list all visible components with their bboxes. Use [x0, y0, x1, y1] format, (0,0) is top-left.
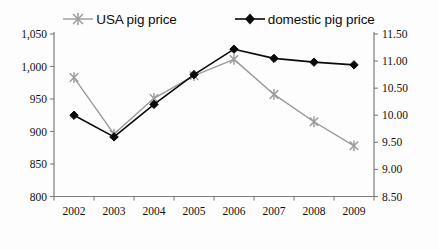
x-axis-tick-label: 2004 [143, 205, 166, 217]
y-axis-right-tick-label: 9.00 [382, 163, 402, 175]
data-point-marker-diamond [270, 54, 278, 62]
y-axis-right-tick-label: 10.00 [382, 109, 408, 121]
x-axis-tick-label: 2002 [63, 205, 86, 217]
y-axis-right-tick-label: 9.50 [382, 136, 402, 148]
x-axis-tick-label: 2009 [343, 205, 366, 217]
data-point-marker-cross-star [310, 116, 318, 127]
x-axis-tick-label: 2007 [263, 205, 286, 217]
x-axis-tick-label: 2008 [303, 205, 326, 217]
data-point-marker-cross-star [270, 89, 278, 100]
data-point-marker-diamond [70, 111, 78, 119]
y-axis-right-tick-label: 11.50 [382, 28, 407, 40]
pig-price-line-chart: USA pig price domestic pig price 1,0501,… [0, 0, 438, 250]
y-axis-left-tick-label: 850 [30, 158, 47, 170]
data-point-marker-cross-star [230, 54, 238, 65]
data-point-marker-diamond [310, 58, 318, 66]
y-axis-left-tick-label: 1,050 [21, 28, 47, 40]
data-point-marker-cross-star [350, 140, 358, 151]
y-axis-right-tick-label: 10.50 [382, 82, 408, 94]
y-axis-right-tick-label: 8.50 [382, 191, 402, 203]
data-point-marker-diamond [230, 45, 238, 53]
data-point-marker-diamond [350, 61, 358, 69]
x-axis-tick-label: 2006 [223, 205, 246, 217]
y-axis-left-tick-label: 1,000 [21, 61, 47, 73]
x-axis-tick-label: 2005 [183, 205, 206, 217]
y-axis-right-tick-label: 11.00 [382, 55, 407, 67]
y-axis-left-tick-label: 950 [30, 93, 47, 105]
x-axis-tick-label: 2003 [103, 205, 126, 217]
y-axis-left-tick-label: 800 [30, 191, 47, 203]
data-point-marker-cross-star [70, 72, 78, 83]
y-axis-left-tick-label: 900 [30, 126, 47, 138]
series-domestic-pig-price [70, 45, 358, 141]
